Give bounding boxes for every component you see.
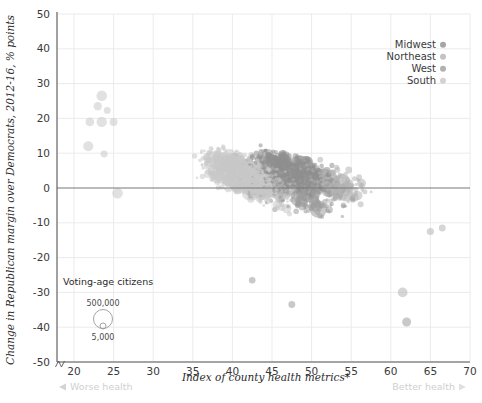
legend-swatch-midwest bbox=[440, 42, 446, 48]
x-tick-label: 65 bbox=[424, 365, 437, 377]
right-arrow-icon bbox=[459, 384, 466, 391]
y-tick-label: -20 bbox=[33, 251, 50, 263]
y-tick-label: -30 bbox=[33, 286, 50, 298]
y-tick-label: 20 bbox=[37, 112, 50, 124]
data-points bbox=[83, 91, 446, 327]
legend-label-west: West bbox=[411, 63, 436, 74]
left-arrow-icon bbox=[59, 384, 66, 391]
size-legend: Voting-age citizens 500,000 5,000 bbox=[63, 276, 153, 342]
scatter-chart: 2025303540455055606570 50403020100-10-20… bbox=[0, 0, 482, 403]
y-tick-label: -50 bbox=[33, 356, 50, 368]
y-tick-label: 40 bbox=[37, 42, 50, 54]
y-tick-label: 30 bbox=[37, 77, 50, 89]
y-tick-label: 0 bbox=[43, 182, 50, 194]
size-legend-large-circle bbox=[94, 310, 113, 329]
x-tick-label: 60 bbox=[384, 365, 397, 377]
legend-swatch-west bbox=[440, 66, 446, 72]
size-legend-title: Voting-age citizens bbox=[63, 276, 153, 287]
x-tick-label: 25 bbox=[107, 365, 120, 377]
x-tick-label: 20 bbox=[67, 365, 80, 377]
legend-label-northeast: Northeast bbox=[387, 51, 436, 62]
legend-label-south: South bbox=[407, 75, 436, 86]
x-tick-label: 70 bbox=[463, 365, 476, 377]
legend-swatch-northeast bbox=[440, 54, 446, 60]
x-axis-title: Index of county health metrics* bbox=[181, 371, 351, 383]
region-legend: MidwestNortheastWestSouth bbox=[387, 39, 446, 86]
y-tick-label: 50 bbox=[37, 8, 50, 20]
worse-health-annotation: Worse health bbox=[70, 381, 132, 392]
y-axis-title: Change in Republican margin over Democra… bbox=[4, 14, 16, 364]
x-tick-label: 30 bbox=[147, 365, 160, 377]
size-legend-small-label: 5,000 bbox=[92, 333, 115, 342]
better-health-annotation: Better health bbox=[392, 381, 455, 392]
legend-label-midwest: Midwest bbox=[395, 39, 436, 50]
y-tick-label: -40 bbox=[33, 321, 50, 333]
size-legend-large-label: 500,000 bbox=[86, 299, 119, 308]
y-axis-tick-labels: 50403020100-10-20-30-40-50 bbox=[33, 8, 50, 368]
legend-swatch-south bbox=[440, 78, 446, 84]
y-tick-label: -10 bbox=[33, 216, 50, 228]
chart-canvas: 2025303540455055606570 50403020100-10-20… bbox=[0, 0, 482, 403]
y-tick-label: 10 bbox=[37, 147, 50, 159]
